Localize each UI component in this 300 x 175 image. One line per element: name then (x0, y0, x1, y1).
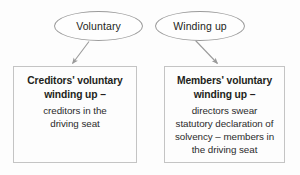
creditors-body-line-1: creditors in the (18, 104, 132, 117)
node-members-voluntary-winding-up-box: Members' voluntary winding up – director… (164, 66, 285, 163)
arrow-voluntary-to-creditors (73, 42, 90, 64)
members-body-line-4: the driving seat (169, 143, 280, 156)
members-heading-line-1: Members' voluntary (169, 74, 280, 88)
creditors-box-body: creditors in the driving seat (18, 104, 132, 130)
members-box-heading: Members' voluntary winding up – (169, 74, 280, 101)
members-body-line-2: statutory declaration of (169, 117, 280, 130)
creditors-heading-line-2: winding up – (18, 88, 132, 102)
members-box-body: directors swear statutory declaration of… (169, 104, 280, 156)
node-voluntary-ellipse: Voluntary (54, 11, 143, 41)
node-creditors-voluntary-winding-up-box: Creditors' voluntary winding up – credit… (13, 66, 137, 163)
creditors-box-heading: Creditors' voluntary winding up – (18, 74, 132, 101)
node-winding-up-label: Winding up (173, 20, 227, 32)
members-body-line-3: solvency – members in (169, 130, 280, 143)
creditors-heading-line-1: Creditors' voluntary (18, 74, 132, 88)
creditors-body-line-2: driving seat (18, 117, 132, 130)
node-winding-up-ellipse: Winding up (155, 11, 245, 41)
members-body-line-1: directors swear (169, 104, 280, 117)
diagram-canvas: Voluntary Winding up Creditors' voluntar… (0, 0, 300, 175)
members-heading-line-2: winding up – (169, 88, 280, 102)
node-voluntary-label: Voluntary (76, 20, 121, 32)
arrow-winding-up-to-members (196, 41, 218, 64)
